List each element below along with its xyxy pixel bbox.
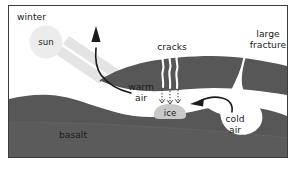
diagram-figure: winter sun cracks large fracture warm ai… xyxy=(0,0,296,170)
label-cracks: cracks xyxy=(157,41,187,52)
crack-line-1 xyxy=(162,56,163,87)
label-cold-air-line1: cold xyxy=(225,113,244,124)
label-large-fracture-line2: fracture xyxy=(250,39,287,50)
crack-line-2 xyxy=(169,55,170,88)
label-ice: ice xyxy=(164,108,176,118)
crack-line-3 xyxy=(176,56,177,88)
label-winter: winter xyxy=(17,11,46,22)
label-warm-air-line2: air xyxy=(135,92,147,103)
label-cold-air-line2: air xyxy=(229,124,241,135)
label-basalt: basalt xyxy=(59,129,87,140)
label-sun: sun xyxy=(38,37,53,47)
label-large-fracture-line1: large xyxy=(256,28,280,39)
cross-section-diagram: winter sun cracks large fracture warm ai… xyxy=(0,0,296,170)
label-warm-air-line1: warm xyxy=(128,81,154,92)
